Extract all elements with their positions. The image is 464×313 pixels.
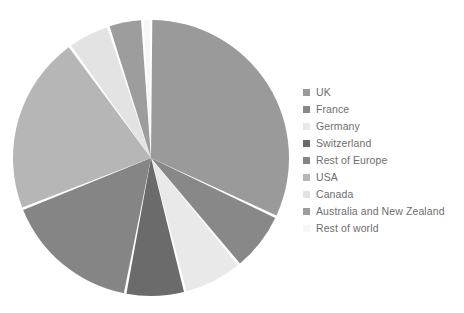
legend-swatch-icon (303, 106, 310, 113)
legend-swatch-icon (303, 89, 310, 96)
legend-item[interactable]: UK (303, 84, 461, 101)
pie-chart-figure: UKFranceGermanySwitzerlandRest of Europe… (0, 0, 464, 313)
legend-item-label: Australia and New Zealand (316, 206, 445, 217)
pie-svg (0, 0, 300, 313)
legend-item-label: USA (316, 172, 338, 183)
legend-swatch-icon (303, 140, 310, 147)
legend-item-label: Switzerland (316, 138, 371, 149)
legend-item[interactable]: Australia and New Zealand (303, 203, 461, 220)
legend-item[interactable]: Rest of Europe (303, 152, 461, 169)
legend-swatch-icon (303, 123, 310, 130)
legend-item-label: Canada (316, 189, 353, 200)
pie-slice-group (13, 20, 289, 296)
legend-swatch-icon (303, 225, 310, 232)
chart-legend: UKFranceGermanySwitzerlandRest of Europe… (303, 84, 461, 237)
pie-plot-area (0, 0, 300, 313)
legend-item-label: UK (316, 87, 331, 98)
legend-item[interactable]: Germany (303, 118, 461, 135)
legend-item-label: Rest of Europe (316, 155, 387, 166)
legend-item[interactable]: Canada (303, 186, 461, 203)
legend-item-label: Rest of world (316, 223, 379, 234)
legend-swatch-icon (303, 191, 310, 198)
legend-swatch-icon (303, 174, 310, 181)
legend-item[interactable]: USA (303, 169, 461, 186)
legend-item[interactable]: Rest of world (303, 220, 461, 237)
legend-item-label: Germany (316, 121, 360, 132)
legend-item[interactable]: France (303, 101, 461, 118)
legend-swatch-icon (303, 157, 310, 164)
legend-swatch-icon (303, 208, 310, 215)
legend-item-label: France (316, 104, 349, 115)
legend-item[interactable]: Switzerland (303, 135, 461, 152)
